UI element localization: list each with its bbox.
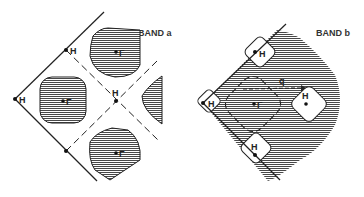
panel-title: BAND a (138, 28, 172, 38)
panel-band-b: BAND b q H H H H Γ (196, 24, 350, 181)
point-label-h: H (19, 95, 26, 105)
fermi-pocket (142, 76, 162, 124)
point-label-gamma: Γ (257, 100, 263, 110)
vector-label-q: q (279, 76, 285, 86)
point-label-h: H (259, 49, 266, 59)
point-label-gamma: Γ (66, 97, 72, 107)
point-label-h: H (112, 88, 119, 98)
point-label-h: H (70, 46, 77, 56)
point-label-gamma: Γ (119, 149, 125, 159)
point-label-h: H (302, 91, 309, 101)
point-label-h: H (208, 99, 215, 109)
point-label-gamma: Γ (119, 48, 125, 58)
point-label-h: H (251, 142, 258, 152)
panel-band-a: BAND a H H H Γ Γ Γ (13, 12, 172, 181)
band-diagram: BAND a H H H Γ Γ Γ BAND b (0, 0, 364, 197)
panel-title: BAND b (316, 28, 350, 38)
